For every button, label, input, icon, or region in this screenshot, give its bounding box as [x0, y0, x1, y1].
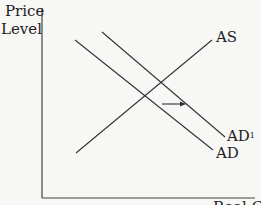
ad1-label-base: AD: [227, 127, 250, 145]
ad1-label: AD1: [227, 129, 255, 144]
ad1-curve: [102, 32, 225, 137]
x-axis-label: Real GDP: [213, 200, 261, 205]
y-axis-label-line1: Price: [5, 4, 44, 19]
shift-arrow-icon: [162, 102, 186, 107]
as-label: AS: [216, 30, 237, 45]
ad-label: AD: [216, 146, 239, 161]
y-axis-label-line2: Level: [1, 22, 42, 37]
ad1-label-superscript: 1: [250, 131, 255, 140]
